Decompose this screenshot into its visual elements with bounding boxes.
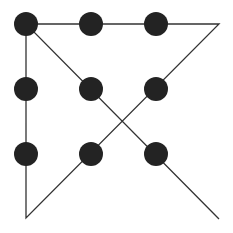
- solution-path-line: [26, 24, 219, 219]
- connecting-lines: [26, 24, 219, 219]
- dot-r2-c1: [79, 142, 103, 166]
- dot-r1-c1: [79, 77, 103, 101]
- dot-r0-c1: [79, 12, 103, 36]
- dot-r1-c0: [14, 77, 38, 101]
- diagram-svg: [0, 0, 233, 233]
- dot-r0-c2: [144, 12, 168, 36]
- nine-dots-diagram: [0, 0, 233, 233]
- dot-r2-c2: [144, 142, 168, 166]
- dot-r2-c0: [14, 142, 38, 166]
- dot-r1-c2: [144, 77, 168, 101]
- dot-r0-c0: [14, 12, 38, 36]
